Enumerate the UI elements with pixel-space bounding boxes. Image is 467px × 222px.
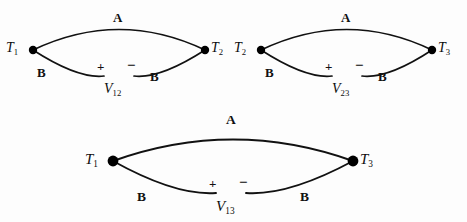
loop-12-conductor-b-left-label: B xyxy=(37,66,46,79)
loop-12-lower-arc-B-right xyxy=(134,50,205,76)
loop-23-conductor-b-right-label: B xyxy=(378,70,387,83)
loop-12-voltage-label: V12 xyxy=(104,82,122,96)
loop-13-plus-sign: + xyxy=(209,177,216,190)
loop-23-lower-arc-B-right xyxy=(362,50,432,76)
circuit-wires xyxy=(0,0,467,222)
figure-canvas: T1 T2 A B B + − V12 T2 T3 A B B + − V23 … xyxy=(0,0,467,222)
loop-12-upper-arc-A xyxy=(33,30,205,51)
loop-12-left-node-label: T1 xyxy=(6,41,18,55)
loop-23-left-node-label: T2 xyxy=(234,41,246,55)
loop-13-conductor-b-left-label: B xyxy=(137,190,146,204)
loop-23-voltage-label: V23 xyxy=(332,82,350,96)
loop-13-conductor-b-right-label: B xyxy=(300,190,309,204)
loop-13-left-node-label: T1 xyxy=(85,152,98,167)
loop-13-wires xyxy=(108,140,359,194)
loop-13-node-right xyxy=(348,156,359,167)
loop-12-plus-sign: + xyxy=(97,60,104,73)
loop-12-right-node-label: T2 xyxy=(211,41,223,55)
loop-13-upper-arc-A xyxy=(113,140,353,162)
loop-13-lower-arc-B-left xyxy=(113,161,216,193)
loop-13-voltage-label: V13 xyxy=(216,199,235,214)
loop-23-right-node-label: T3 xyxy=(438,41,450,55)
loop-12-node-left xyxy=(29,46,37,54)
loop-13-right-node-label: T3 xyxy=(360,152,373,167)
loop-12-conductor-a-label: A xyxy=(113,11,122,24)
loop-13-minus-sign: − xyxy=(239,175,248,190)
loop-13-node-left xyxy=(108,156,119,167)
loop-13-conductor-a-label: A xyxy=(226,113,236,127)
loop-23-wires xyxy=(257,30,436,77)
loop-23-upper-arc-A xyxy=(261,30,432,51)
loop-12-conductor-b-right-label: B xyxy=(150,70,159,83)
loop-23-node-right xyxy=(428,46,436,54)
loop-23-conductor-b-left-label: B xyxy=(265,66,274,79)
loop-23-node-left xyxy=(257,46,265,54)
loop-23-minus-sign: − xyxy=(355,58,364,73)
loop-12-node-right xyxy=(201,46,209,54)
loop-23-conductor-a-label: A xyxy=(341,11,350,24)
loop-12-minus-sign: − xyxy=(127,58,136,73)
loop-12-wires xyxy=(29,30,209,77)
loop-23-plus-sign: + xyxy=(325,60,332,73)
